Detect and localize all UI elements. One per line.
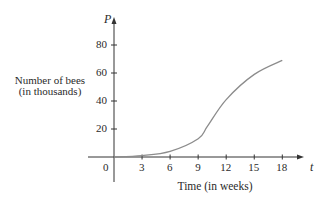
- y-axis-label: Number of bees (in thousands): [10, 75, 90, 97]
- y-tick-label: 20: [96, 123, 107, 134]
- x-axis-label: Time (in weeks): [165, 180, 265, 192]
- x-tick-label: 12: [220, 162, 231, 173]
- y-axis-arrow-icon: [112, 17, 117, 24]
- x-tick-label: 18: [276, 162, 287, 173]
- x-axis-arrow-icon: [297, 155, 304, 160]
- origin-label: 0: [103, 162, 109, 173]
- bee-population-chart: [0, 0, 320, 197]
- x-axis-symbol: t: [310, 161, 313, 173]
- y-tick-label: 60: [96, 67, 107, 78]
- x-tick-label: 9: [195, 162, 201, 173]
- x-tick-label: 15: [248, 162, 259, 173]
- y-tick-label: 80: [96, 39, 107, 50]
- x-tick-label: 6: [167, 162, 173, 173]
- y-tick-label: 40: [96, 95, 107, 106]
- y-axis-symbol: P: [104, 13, 111, 25]
- x-tick-label: 3: [139, 162, 145, 173]
- population-curve: [114, 60, 282, 157]
- y-axis-label-line-2: (in thousands): [10, 86, 90, 97]
- ticks: [111, 45, 282, 160]
